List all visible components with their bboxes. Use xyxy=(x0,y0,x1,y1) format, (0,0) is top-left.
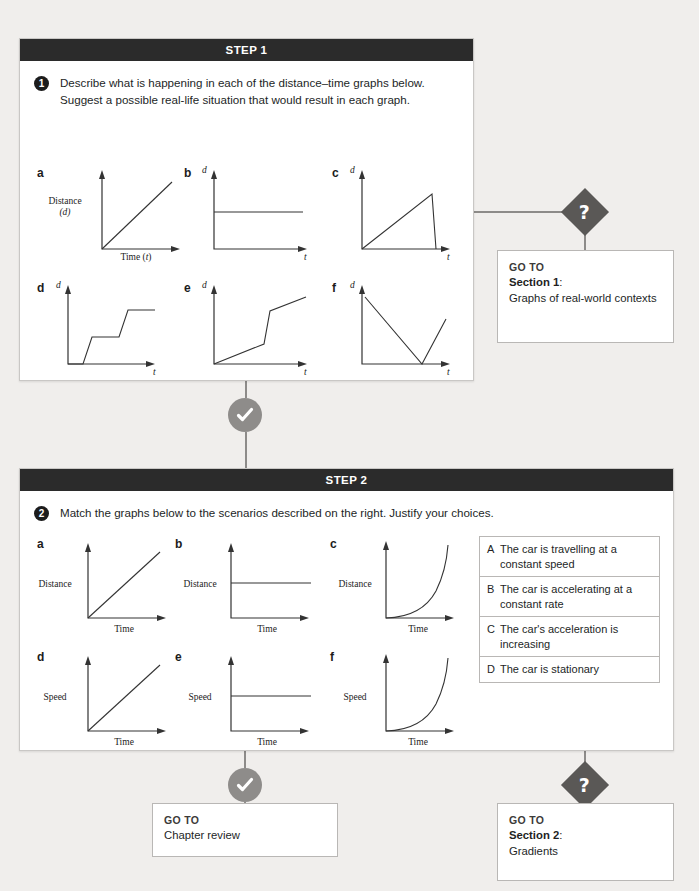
step2-graph-e-ylabel: Speed xyxy=(171,692,229,703)
step2-graph-c-ylabel: Distance xyxy=(326,579,384,590)
scenario-text-d: The car is stationary xyxy=(500,662,599,677)
check-mark-icon-2 xyxy=(228,768,262,802)
step1-graph-a-label: a xyxy=(37,166,44,180)
connector-check-to-step2 xyxy=(245,432,247,468)
scenario-row-c[interactable]: C The car's acceleration is increasing xyxy=(480,617,659,657)
goto-section2-target: Section 2: xyxy=(509,828,662,844)
step2-graph-a: a Distance Time xyxy=(20,535,175,640)
scenario-row-a[interactable]: A The car is travelling at a constant sp… xyxy=(480,537,659,577)
step2-graph-a-xlabel: Time xyxy=(94,624,154,635)
scenario-row-d[interactable]: D The car is stationary xyxy=(480,657,659,682)
goto-chapter-review-detail: Chapter review xyxy=(164,828,326,844)
connector-step2-to-check2 xyxy=(244,751,246,768)
step1-graph-b-plot xyxy=(182,164,330,269)
scenario-options-table: A The car is travelling at a constant sp… xyxy=(479,536,660,683)
step2-graph-e-label: e xyxy=(175,650,182,664)
scenario-row-b[interactable]: B The car is accelerating at a constant … xyxy=(480,577,659,617)
worksheet-page: STEP 1 1 Describe what is happening in e… xyxy=(0,0,699,891)
step2-question-number: 2 xyxy=(34,506,49,521)
check-mark-icon xyxy=(228,398,262,432)
check-circle-2[interactable] xyxy=(228,768,262,802)
connector-step1-to-question xyxy=(474,211,567,213)
scenario-text-a: The car is travelling at a constant spee… xyxy=(500,542,653,571)
step2-graph-e: e Speed Time xyxy=(175,648,330,753)
scenario-key-d: D xyxy=(487,662,500,677)
step2-graph-f: f Speed Time xyxy=(330,648,480,753)
goto-section2-detail: Gradients xyxy=(509,844,662,860)
step2-graph-e-xlabel: Time xyxy=(237,737,297,748)
check-glyph xyxy=(235,405,255,425)
goto-section2-box[interactable]: GO TO Section 2: Gradients xyxy=(497,803,674,881)
step1-graph-d-label: d xyxy=(37,281,44,295)
check-glyph-2 xyxy=(235,775,255,795)
goto-section1-heading: GO TO xyxy=(509,260,662,275)
step1-graph-c-ylabel: d xyxy=(350,165,355,175)
step2-graph-d: d Speed Time xyxy=(20,648,175,753)
step2-question-row: 2 Match the graphs below to the scenario… xyxy=(20,491,673,522)
step1-graph-b: b d t xyxy=(182,164,330,269)
step2-graph-f-ylabel: Speed xyxy=(326,692,384,703)
step2-graph-c: c Distance Time xyxy=(330,535,480,640)
step1-graph-e: e d t xyxy=(182,279,330,384)
step1-graph-b-xlabel: t xyxy=(304,252,307,262)
goto-section1-target: Section 1: xyxy=(509,275,662,291)
check-circle-1[interactable] xyxy=(228,398,262,432)
goto-section1-box[interactable]: GO TO Section 1: Graphs of real-world co… xyxy=(497,250,674,343)
step2-graph-f-xlabel: Time xyxy=(388,737,448,748)
step1-question-row: 1 Describe what is happening in each of … xyxy=(20,61,473,108)
step2-graph-row-1: a Distance Time b Distance Time xyxy=(20,535,480,640)
step2-graph-b-xlabel: Time xyxy=(237,624,297,635)
step1-graph-a-xlabel: Time (t) xyxy=(100,252,172,263)
step2-graph-f-label: f xyxy=(330,650,334,664)
question-diamond-1[interactable]: ? xyxy=(568,195,602,229)
step2-question-text: Match the graphs below to the scenarios … xyxy=(60,505,494,522)
step1-graph-row-2: d d t e d t xyxy=(20,279,475,384)
step1-graph-row-1: a Distance (d) Time (t) xyxy=(20,164,475,269)
scenario-key-a: A xyxy=(487,542,500,571)
step1-panel: STEP 1 1 Describe what is happening in e… xyxy=(19,38,474,381)
step1-graph-e-ylabel: d xyxy=(202,280,207,290)
step1-body: 1 Describe what is happening in each of … xyxy=(20,61,473,380)
scenario-key-c: C xyxy=(487,622,500,651)
step2-graph-d-label: d xyxy=(37,650,44,664)
step1-graph-a-ylabel: Distance (d) xyxy=(34,196,96,218)
step1-question-number: 1 xyxy=(34,76,49,91)
step2-graph-c-xlabel: Time xyxy=(388,624,448,635)
step1-graph-c: c d t xyxy=(330,164,475,269)
step1-graph-e-label: e xyxy=(184,281,191,295)
step1-graph-d-xlabel: t xyxy=(153,367,156,377)
step2-graph-d-ylabel: Speed xyxy=(26,692,84,703)
step2-graph-c-label: c xyxy=(330,537,337,551)
step1-graph-a: a Distance (d) Time (t) xyxy=(20,164,182,269)
scenario-key-b: B xyxy=(487,582,500,611)
step1-graph-b-ylabel: d xyxy=(202,165,207,175)
step2-graph-b: b Distance Time xyxy=(175,535,330,640)
step1-graph-d: d d t xyxy=(20,279,182,384)
step1-graph-c-label: c xyxy=(332,166,339,180)
step1-graph-f-ylabel: d xyxy=(350,280,355,290)
goto-section2-heading: GO TO xyxy=(509,813,662,828)
goto-chapter-review-heading: GO TO xyxy=(164,813,326,828)
goto-chapter-review-box[interactable]: GO TO Chapter review xyxy=(152,803,338,857)
step1-header: STEP 1 xyxy=(20,39,473,61)
step1-graph-d-ylabel: d xyxy=(56,280,61,290)
scenario-text-c: The car's acceleration is increasing xyxy=(500,622,653,651)
step2-graph-a-label: a xyxy=(37,537,44,551)
step2-graph-b-label: b xyxy=(175,537,182,551)
step2-graph-row-2: d Speed Time e Speed Time xyxy=(20,648,480,753)
step1-question-text: Describe what is happening in each of th… xyxy=(60,75,430,108)
scenario-text-b: The car is accelerating at a constant ra… xyxy=(500,582,653,611)
step1-graph-b-label: b xyxy=(184,166,191,180)
step1-graph-e-xlabel: t xyxy=(304,367,307,377)
step1-graph-c-plot xyxy=(330,164,475,269)
step2-graph-b-ylabel: Distance xyxy=(171,579,229,590)
step1-graph-f: f d t xyxy=(330,279,475,384)
question-mark-icon: ? xyxy=(561,188,609,236)
goto-section1-detail: Graphs of real-world contexts xyxy=(509,291,662,307)
question-mark-icon-2: ? xyxy=(561,761,609,809)
step1-graph-f-xlabel: t xyxy=(447,367,450,377)
step2-graph-a-ylabel: Distance xyxy=(26,579,84,590)
step2-graph-d-xlabel: Time xyxy=(94,737,154,748)
question-diamond-2[interactable]: ? xyxy=(568,768,602,802)
step1-graph-c-xlabel: t xyxy=(447,252,450,262)
